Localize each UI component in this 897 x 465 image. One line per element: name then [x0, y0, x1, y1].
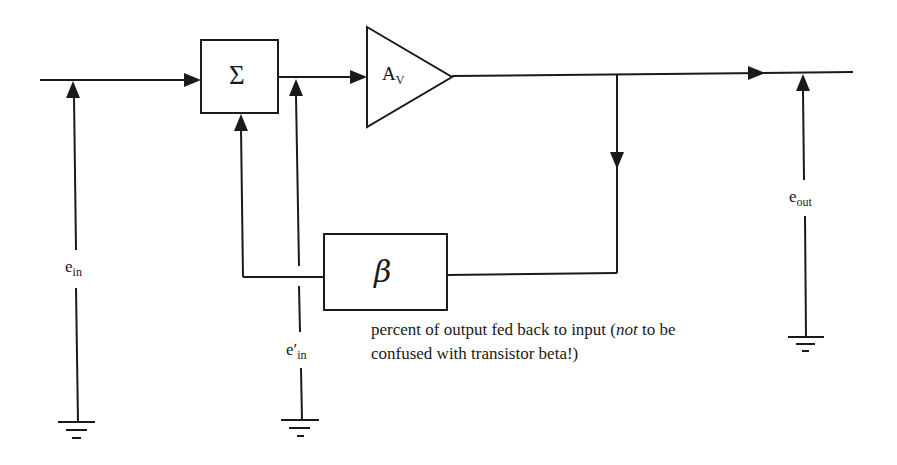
e-prime-in-sub: in	[297, 348, 306, 362]
feedback-beta-symbol: β	[374, 254, 391, 289]
summer-symbol: Σ	[229, 60, 245, 91]
annotation-line-1: percent of output fed back to input (not…	[371, 318, 676, 342]
e-in-main: e	[65, 257, 73, 276]
e-out-sub: out	[797, 195, 812, 209]
e-out-label: eout	[789, 187, 812, 210]
e-prime-in-main: e′	[286, 340, 297, 359]
e-in-sub: in	[73, 265, 82, 279]
amplifier-gain-label: AV	[382, 63, 404, 88]
diagram-lines	[0, 0, 897, 465]
annotation-text: percent of output fed back to input (	[371, 320, 616, 339]
amplifier-gain-main: A	[382, 63, 396, 84]
annotation-line-2: confused with transistor beta!)	[371, 342, 676, 366]
annotation-emphasis: not	[616, 320, 638, 339]
beta-annotation: percent of output fed back to input (not…	[371, 318, 676, 366]
annotation-text: to be	[638, 320, 676, 339]
e-out-main: e	[789, 187, 797, 206]
amplifier-block	[367, 27, 452, 127]
amplifier-gain-sub: V	[396, 73, 405, 87]
e-prime-in-label: e′in	[286, 340, 307, 363]
feedback-amplifier-diagram: Σ AV β ein e′in eout percent of output f…	[0, 0, 897, 465]
e-in-label: ein	[65, 257, 82, 280]
